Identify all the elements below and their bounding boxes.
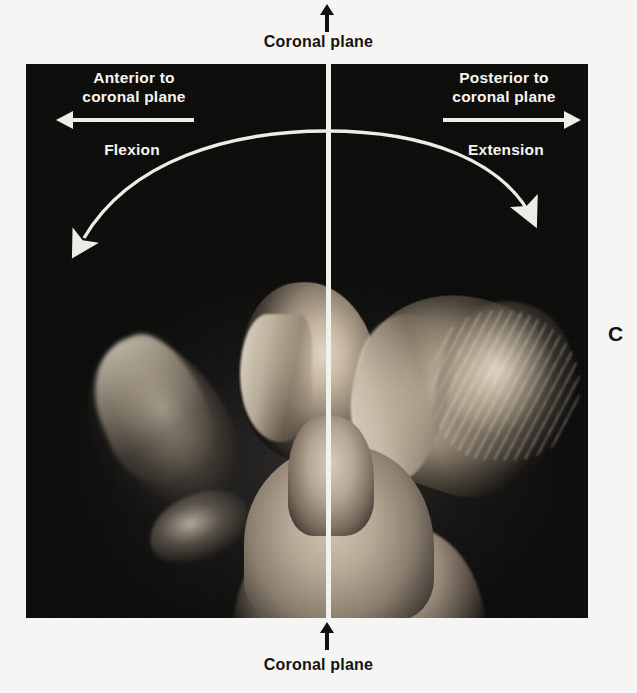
coronal-plane-bottom-caption: Coronal plane xyxy=(0,656,637,674)
label-extension: Extension xyxy=(428,140,584,159)
anatomy-figure: Coronal plane xyxy=(0,0,637,693)
coronal-plane-top-caption: Coronal plane xyxy=(0,33,637,51)
coronal-plane-bottom-arrow-icon xyxy=(325,632,329,650)
label-anterior-to-coronal-plane: Anterior to coronal plane xyxy=(44,68,224,106)
posterior-right-arrow-icon xyxy=(443,118,565,122)
label-flexion: Flexion xyxy=(52,140,212,159)
coronal-plane-line xyxy=(326,64,331,618)
figure-letter: C xyxy=(608,322,623,346)
coronal-plane-top-arrow-icon xyxy=(325,14,329,32)
anterior-left-arrow-icon xyxy=(72,118,194,122)
label-posterior-to-coronal-plane: Posterior to coronal plane xyxy=(420,68,588,106)
